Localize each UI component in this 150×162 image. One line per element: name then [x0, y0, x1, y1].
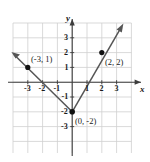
axis-arrowheads [70, 19, 141, 85]
x-tick-label-neg3: -3 [24, 85, 31, 93]
curve-right-arrow [117, 23, 124, 32]
y-tick-label-neg1: -1 [62, 93, 69, 101]
coordinate-graph-figure: -3 -2 -1 1 2 3 3 2 1 -1 -2 -3 y x (-3, 1… [0, 0, 150, 162]
point-label-vertex: (0, -2) [75, 117, 96, 126]
x-tick-label-neg1: -1 [53, 85, 60, 93]
y-tick-label-1: 1 [65, 64, 69, 72]
x-tick-label-1: 1 [85, 85, 89, 93]
x-tick-label-3: 3 [114, 85, 118, 93]
y-axis-arrow [70, 19, 75, 25]
point-marker-left [25, 65, 30, 70]
x-tick-label-2: 2 [100, 85, 104, 93]
y-tick-label-3: 3 [64, 34, 68, 42]
y-axis-name: y [66, 14, 70, 23]
y-tick-label-neg2: -2 [61, 108, 68, 116]
curve-right-branch [72, 28, 121, 112]
point-marker-right [99, 50, 104, 55]
y-tick-label-neg3: -3 [61, 123, 68, 131]
x-tick-label-neg2: -2 [39, 85, 46, 93]
point-marker-vertex [69, 109, 75, 115]
x-axis-name: x [140, 85, 145, 94]
point-label-left: (-3, 1) [31, 55, 52, 64]
graph-canvas [0, 0, 150, 162]
point-label-right: (2, 2) [105, 58, 123, 67]
y-tick-label-2: 2 [64, 49, 68, 57]
